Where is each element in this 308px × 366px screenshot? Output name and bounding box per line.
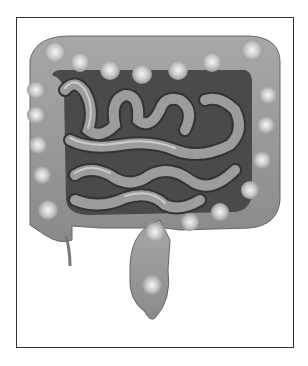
intestines-illustration bbox=[0, 0, 308, 366]
